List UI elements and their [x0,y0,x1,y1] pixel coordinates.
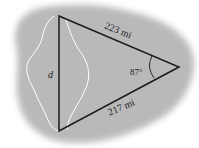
triangle-diagram: 223 mi 217 mi d 87° [0,0,199,148]
angle-label: 87° [130,67,143,77]
